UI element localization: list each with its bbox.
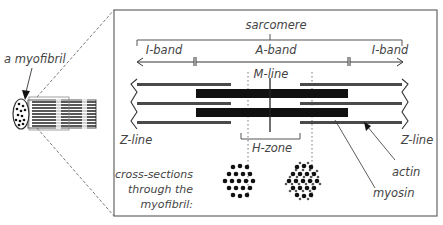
cross-section-h-zone (223, 164, 256, 199)
band-markers (137, 57, 403, 66)
sarcomere-diagram: a myofibril sarcomere I-band A-band I-ba… (0, 0, 443, 225)
actin-pointer (367, 126, 395, 160)
z-line-right-label: Z-line (400, 133, 433, 147)
caption-line-1: cross-sections (115, 168, 193, 181)
myofibril-label: a myofibril (4, 52, 66, 66)
caption-line-3: myofibril: (141, 198, 193, 211)
z-line-right (402, 79, 408, 129)
h-zone-label: H-zone (252, 141, 292, 155)
sarcomere-label: sarcomere (245, 18, 306, 32)
actin-label: actin (392, 165, 420, 179)
myofibril-illustration (13, 97, 96, 130)
m-line-label: M-line (254, 67, 289, 81)
h-zone-bracket (241, 133, 300, 139)
myosin-pointer (335, 120, 375, 188)
zoom-line-bottom (37, 128, 114, 216)
i-band-right-label: I-band (372, 43, 409, 57)
myofibril-pointer (26, 68, 32, 92)
a-band-label: A-band (255, 43, 298, 57)
myosin-label: myosin (373, 186, 415, 200)
caption-line-2: through the (128, 183, 193, 196)
z-line-left-label: Z-line (119, 133, 152, 147)
z-line-left (131, 79, 137, 129)
cross-section-caption: cross-sections through the myofibril: (115, 168, 193, 211)
i-band-left-label: I-band (146, 43, 183, 57)
cross-section-overlap (285, 162, 322, 201)
